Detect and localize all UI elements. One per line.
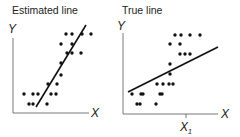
data-point xyxy=(27,102,30,105)
data-point xyxy=(54,92,57,95)
data-point xyxy=(49,92,52,95)
data-point xyxy=(178,52,181,55)
left-x-label: X xyxy=(90,106,100,120)
data-point xyxy=(89,32,92,35)
data-point xyxy=(31,92,34,95)
right-scatter-points xyxy=(130,33,201,105)
data-point xyxy=(171,82,174,85)
data-point xyxy=(55,82,58,85)
data-point xyxy=(141,92,144,95)
data-point xyxy=(130,92,133,95)
data-point xyxy=(168,42,171,45)
data-point xyxy=(138,102,141,105)
data-point xyxy=(155,82,158,85)
data-point xyxy=(45,102,48,105)
left-y-label: Y xyxy=(8,22,17,36)
diagram-canvas: Y X Y X X 1 xyxy=(0,0,240,137)
data-point xyxy=(22,92,25,95)
left-axes xyxy=(13,38,89,113)
data-point xyxy=(179,33,182,36)
data-point xyxy=(135,102,138,105)
right-y-label: Y xyxy=(117,19,126,33)
left-estimated-line xyxy=(36,25,86,107)
data-point xyxy=(188,52,191,55)
data-point xyxy=(59,42,62,45)
data-point xyxy=(188,33,191,36)
data-point xyxy=(64,32,67,35)
data-point xyxy=(70,51,73,54)
data-point xyxy=(167,82,170,85)
data-point xyxy=(183,52,186,55)
x1-tick-subscript: 1 xyxy=(188,128,192,135)
right-x-label: X xyxy=(220,107,230,121)
data-point xyxy=(31,102,34,105)
data-point xyxy=(79,51,82,54)
data-point xyxy=(160,92,163,95)
left-scatter-points xyxy=(22,32,92,105)
data-point xyxy=(178,42,181,45)
data-point xyxy=(173,33,176,36)
data-point xyxy=(36,92,39,95)
data-point xyxy=(59,73,62,76)
data-point xyxy=(154,102,157,105)
data-point xyxy=(198,33,201,36)
data-point xyxy=(161,82,164,85)
data-point xyxy=(168,72,171,75)
data-point xyxy=(168,62,171,65)
data-point xyxy=(70,32,73,35)
